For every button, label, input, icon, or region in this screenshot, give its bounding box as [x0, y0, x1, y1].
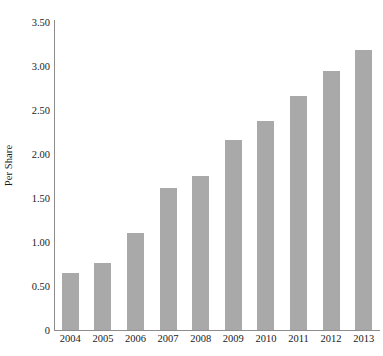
x-axis-tick-labels: 2004200520062007200820092010201120122013	[54, 333, 380, 353]
y-tick-label: 2.50	[14, 105, 50, 116]
bar-chart: Per Share 00.501.001.502.002.503.003.50 …	[0, 0, 383, 356]
y-axis-tick-labels: 00.501.001.502.002.503.003.50	[14, 0, 50, 356]
bar	[192, 176, 209, 330]
y-tick-label: 1.50	[14, 193, 50, 204]
x-axis-line	[54, 330, 380, 331]
bar	[355, 50, 372, 330]
bar	[160, 188, 177, 330]
bar	[62, 273, 79, 330]
bar	[257, 121, 274, 330]
y-tick-label: 0	[14, 325, 50, 336]
bar	[94, 263, 111, 330]
x-tick-label: 2013	[344, 333, 383, 344]
y-tick-label: 3.50	[14, 17, 50, 28]
y-tick-label: 1.00	[14, 237, 50, 248]
bars-container	[54, 0, 380, 330]
y-tick-label: 2.00	[14, 149, 50, 160]
bar	[225, 140, 242, 330]
bar	[323, 71, 340, 330]
y-tick-label: 0.50	[14, 281, 50, 292]
bar	[290, 96, 307, 330]
y-tick-label: 3.00	[14, 61, 50, 72]
y-axis-title-label: Per Share	[4, 144, 15, 185]
bar	[127, 233, 144, 330]
